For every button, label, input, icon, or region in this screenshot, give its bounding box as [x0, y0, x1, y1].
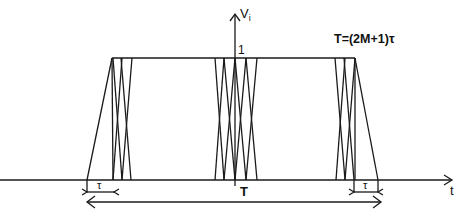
period-label: T: [240, 184, 248, 199]
period-formula-label: T=(2M+1)τ: [334, 32, 395, 46]
tau-right-label: τ: [363, 179, 368, 191]
level-one-label: 1: [238, 43, 245, 57]
left-edge-cluster: [112, 58, 132, 180]
right-ramp: [355, 58, 378, 180]
tau-left-label: τ: [97, 179, 102, 191]
pulse-diagram: Vi 1 t T=(2M+1)τ T τ τ: [0, 0, 466, 221]
middle-edge-cluster: [215, 58, 257, 180]
time-axis-label: t: [450, 183, 454, 198]
period-arrow: [87, 196, 381, 208]
right-edge-cluster: [335, 58, 355, 180]
left-ramp: [87, 58, 112, 180]
voltage-axis-label: Vi: [240, 6, 251, 23]
